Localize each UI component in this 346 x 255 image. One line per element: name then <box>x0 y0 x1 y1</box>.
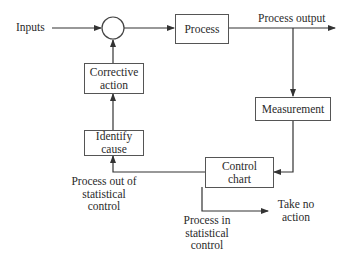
out-of-control-text-2: statistical <box>54 188 154 201</box>
take-no-action-label: Take no action <box>270 198 322 223</box>
corrective-action-text-1: Corrective <box>90 66 139 79</box>
identify-cause-text-2: cause <box>101 143 127 156</box>
identify-cause-box: Identify cause <box>84 130 144 156</box>
in-control-text-2: statistical <box>172 227 242 240</box>
measurement-box: Measurement <box>255 97 331 121</box>
control-chart-text-1: Control <box>222 160 257 173</box>
process-box: Process <box>175 14 229 44</box>
in-control-label: Process in statistical control <box>172 214 242 252</box>
measurement-text: Measurement <box>262 103 325 116</box>
in-control-text-1: Process in <box>172 214 242 227</box>
take-no-action-text-1: Take no <box>270 198 322 211</box>
identify-cause-text-1: Identify <box>96 130 132 143</box>
inputs-label: Inputs <box>16 21 45 34</box>
control-chart-box: Control chart <box>205 157 274 188</box>
corrective-action-text-2: action <box>100 79 128 92</box>
take-no-action-text-2: action <box>270 211 322 224</box>
out-of-control-text-1: Process out of <box>54 175 154 188</box>
in-control-text-3: control <box>172 239 242 252</box>
process-text: Process <box>184 23 219 36</box>
inputs-text: Inputs <box>16 21 45 33</box>
out-of-control-text-3: control <box>54 200 154 213</box>
process-output-text: Process output <box>258 12 325 24</box>
out-of-control-label: Process out of statistical control <box>54 175 154 213</box>
corrective-action-box: Corrective action <box>84 63 144 94</box>
process-output-label: Process output <box>258 12 325 25</box>
control-chart-text-2: chart <box>228 173 251 186</box>
